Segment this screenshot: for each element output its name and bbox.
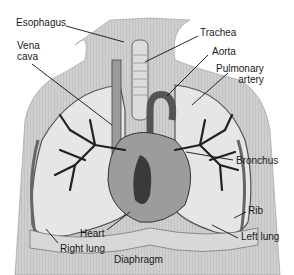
label-rib: Rib — [248, 205, 263, 216]
label-heart: Heart — [80, 228, 104, 239]
label-bronchus: Bronchus — [236, 155, 278, 166]
label-pulmonary-artery-text: Pulmonary artery — [216, 63, 264, 85]
label-vena-cava: Vena cava — [17, 40, 40, 62]
label-left-lung: Left lung — [241, 231, 279, 242]
label-right-lung: Right lung — [60, 243, 105, 254]
trachea-shape — [132, 40, 148, 120]
anatomy-diagram: Esophagus Vena cava Trachea Aorta Pulmon… — [0, 0, 294, 275]
label-diaphragm: Diaphragm — [114, 254, 163, 265]
label-vena-cava-text: Vena cava — [17, 40, 40, 62]
label-trachea: Trachea — [200, 27, 236, 38]
label-pulmonary-artery: Pulmonary artery — [216, 63, 264, 85]
label-esophagus: Esophagus — [16, 17, 66, 28]
label-aorta: Aorta — [212, 46, 236, 57]
